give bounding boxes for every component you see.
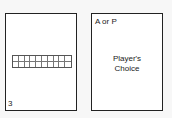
card-corner-label: A or P xyxy=(95,17,117,26)
card-left: 3 xyxy=(5,13,77,111)
center-line-1: Player's xyxy=(92,54,162,64)
card-center-text: Player's Choice xyxy=(92,54,162,74)
center-line-2: Choice xyxy=(92,64,162,74)
card-right: A or P Player's Choice xyxy=(91,13,163,111)
track-grid xyxy=(12,55,72,68)
card-number: 3 xyxy=(8,99,12,108)
grid-cell xyxy=(65,62,71,68)
